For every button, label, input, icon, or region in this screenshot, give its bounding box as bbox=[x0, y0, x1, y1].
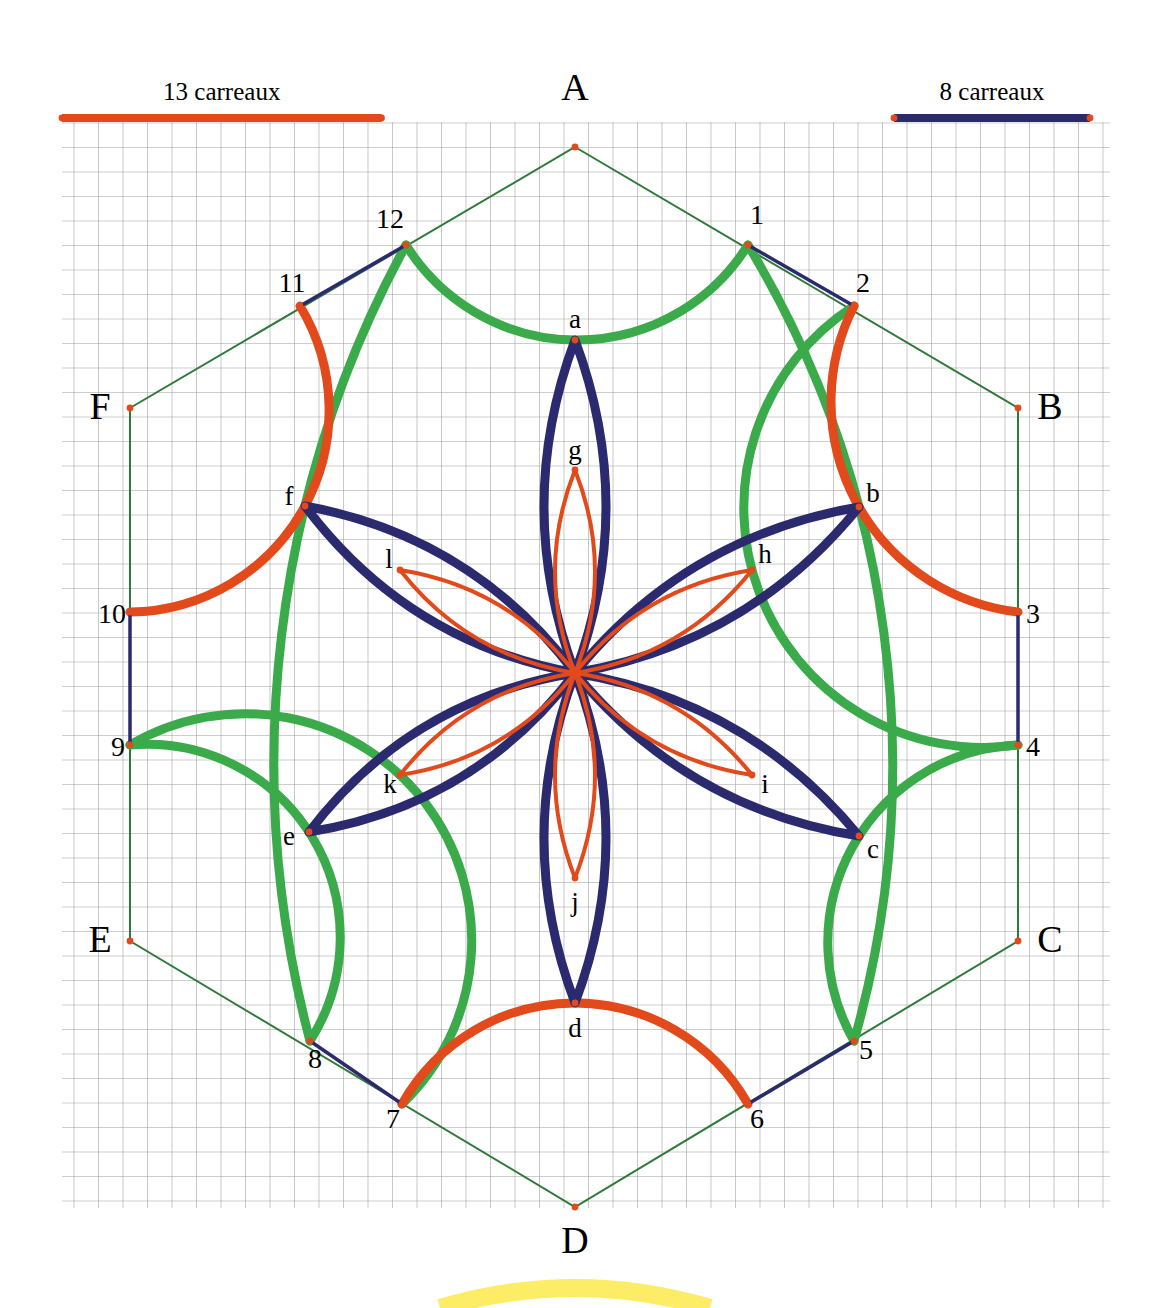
point-dot-j bbox=[572, 875, 579, 882]
label-i: i bbox=[761, 769, 769, 799]
point-dot-10 bbox=[127, 609, 134, 616]
label-12: 12 bbox=[376, 203, 404, 234]
point-dot-11 bbox=[297, 303, 304, 310]
label-C: C bbox=[1037, 918, 1062, 960]
label-l: l bbox=[385, 544, 393, 574]
point-dot-E bbox=[127, 938, 134, 945]
label-E: E bbox=[88, 918, 111, 960]
legend-left-start-dot bbox=[59, 115, 66, 122]
point-dot-d bbox=[572, 1000, 579, 1007]
point-dot-e bbox=[306, 829, 313, 836]
point-dot-F bbox=[127, 405, 134, 412]
point-dot-4 bbox=[1015, 742, 1022, 749]
label-b: b bbox=[866, 478, 880, 508]
point-dot-2 bbox=[851, 303, 858, 310]
point-dot-h bbox=[749, 567, 756, 574]
label-10: 10 bbox=[98, 598, 126, 629]
point-dot-a bbox=[572, 337, 579, 344]
label-4: 4 bbox=[1026, 731, 1040, 762]
label-f: f bbox=[285, 481, 294, 511]
legend-left-label: 13 carreaux bbox=[163, 78, 281, 105]
label-B: B bbox=[1037, 385, 1062, 427]
label-A: A bbox=[561, 66, 589, 108]
label-11: 11 bbox=[279, 267, 306, 298]
point-dot-A bbox=[572, 144, 579, 151]
label-g: g bbox=[568, 435, 582, 465]
point-dot-i bbox=[749, 772, 756, 779]
label-1: 1 bbox=[750, 199, 764, 230]
label-d: d bbox=[568, 1013, 582, 1043]
label-e: e bbox=[283, 821, 295, 851]
label-D: D bbox=[561, 1219, 588, 1261]
legend-right-label: 8 carreaux bbox=[940, 78, 1045, 105]
point-dot-l bbox=[397, 567, 404, 574]
point-dot-5 bbox=[851, 1038, 858, 1045]
yellow-highlight-arc bbox=[440, 1288, 710, 1308]
point-dot-g bbox=[572, 467, 579, 474]
point-dot-B bbox=[1015, 405, 1022, 412]
label-3: 3 bbox=[1026, 598, 1040, 629]
point-dot-D bbox=[572, 1204, 579, 1211]
label-h: h bbox=[758, 539, 772, 569]
point-dot-1 bbox=[745, 242, 752, 249]
geometric-construction-svg: ABCDEF123456789101112abcdefghijkl 13 car… bbox=[0, 0, 1158, 1308]
label-k: k bbox=[383, 769, 397, 799]
point-dot-9 bbox=[127, 742, 134, 749]
label-2: 2 bbox=[856, 267, 870, 298]
label-5: 5 bbox=[859, 1034, 873, 1065]
point-dot-c bbox=[856, 833, 863, 840]
label-7: 7 bbox=[386, 1103, 400, 1134]
label-c: c bbox=[867, 834, 879, 864]
figure-canvas: ABCDEF123456789101112abcdefghijkl 13 car… bbox=[0, 0, 1158, 1308]
yellow-arc bbox=[440, 1288, 710, 1308]
label-j: j bbox=[570, 887, 579, 917]
point-dot-C bbox=[1015, 938, 1022, 945]
label-6: 6 bbox=[750, 1103, 764, 1134]
legend-right-end-dot bbox=[1087, 115, 1094, 122]
point-dot-k bbox=[397, 772, 404, 779]
legend-right-start-dot bbox=[891, 115, 898, 122]
point-dot-f bbox=[302, 503, 309, 510]
label-F: F bbox=[89, 385, 110, 427]
label-a: a bbox=[569, 304, 581, 334]
label-8: 8 bbox=[308, 1043, 322, 1074]
legend-left-end-dot bbox=[378, 115, 385, 122]
label-9: 9 bbox=[111, 731, 125, 762]
point-dot-12 bbox=[403, 242, 410, 249]
point-dot-3 bbox=[1015, 609, 1022, 616]
point-dot-b bbox=[856, 504, 863, 511]
